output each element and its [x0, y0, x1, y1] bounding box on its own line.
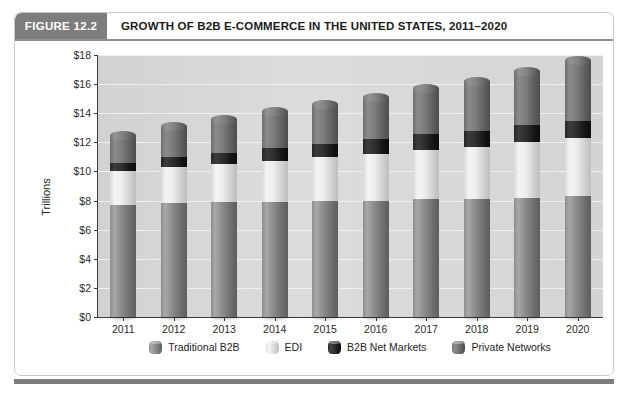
y-axis-tick-label: $10	[73, 165, 91, 177]
x-axis-tick-mark	[578, 317, 579, 321]
y-axis-label: Trillions	[40, 152, 52, 242]
bar-segment	[161, 203, 187, 317]
bar-segment	[464, 147, 490, 199]
x-axis-tick-mark	[325, 317, 326, 321]
legend-label: EDI	[285, 341, 303, 353]
bar-top-cap	[110, 131, 136, 140]
legend-item[interactable]: Private Networks	[452, 341, 550, 354]
bar-segment	[565, 138, 591, 196]
bar-segment	[363, 97, 389, 139]
bar-segment	[312, 157, 338, 201]
bar-segment	[161, 167, 187, 203]
x-axis-tick-mark	[275, 317, 276, 321]
bar-segment	[211, 153, 237, 165]
bar-top-cap	[413, 84, 439, 93]
bar-segment	[262, 202, 288, 317]
y-axis-tick-label: $0	[79, 311, 91, 323]
bar-segment	[514, 71, 540, 125]
bar-segment	[110, 171, 136, 204]
x-axis-tick-label: 2019	[503, 323, 551, 335]
bar-segment	[363, 154, 389, 201]
legend-label: Private Networks	[471, 341, 550, 353]
legend-swatch-icon	[149, 341, 162, 354]
footer-rule	[14, 379, 614, 384]
bar-segment	[464, 81, 490, 130]
plot-area: $0$2$4$6$8$10$12$14$16$18 20112012201320…	[97, 55, 603, 317]
y-axis-tick-label: $14	[73, 107, 91, 119]
x-axis-tick-mark	[174, 317, 175, 321]
x-axis-tick-label: 2012	[150, 323, 198, 335]
y-axis-tick-label: $8	[79, 195, 91, 207]
bar-segment	[413, 199, 439, 317]
chart-legend: Traditional B2BEDIB2B Net MarketsPrivate…	[97, 337, 603, 357]
bar-segment	[464, 131, 490, 147]
bar-segment	[514, 125, 540, 142]
legend-label: Traditional B2B	[168, 341, 239, 353]
x-axis-tick-mark	[376, 317, 377, 321]
bar-segment	[565, 121, 591, 138]
figure-header: FIGURE 12.2 GROWTH OF B2B E-COMMERCE IN …	[15, 13, 613, 41]
bar-top-cap	[514, 67, 540, 76]
bar-segment	[110, 205, 136, 317]
bar-segment	[514, 142, 540, 197]
bar-top-cap	[464, 77, 490, 86]
y-axis-tick-label: $2	[79, 282, 91, 294]
figure-card: FIGURE 12.2 GROWTH OF B2B E-COMMERCE IN …	[14, 12, 614, 376]
figure-number-tag: FIGURE 12.2	[15, 13, 107, 39]
y-axis-tick-mark	[94, 317, 98, 318]
y-axis-tick-label: $4	[79, 253, 91, 265]
y-axis-tick-label: $16	[73, 78, 91, 90]
x-axis-tick-label: 2017	[402, 323, 450, 335]
y-axis-tick-label: $18	[73, 49, 91, 61]
bar-top-cap	[211, 115, 237, 124]
x-axis-tick-label: 2014	[251, 323, 299, 335]
x-axis-tick-mark	[477, 317, 478, 321]
bar-segment	[363, 139, 389, 154]
figure-title: GROWTH OF B2B E-COMMERCE IN THE UNITED S…	[107, 13, 613, 39]
bar-segment	[363, 201, 389, 317]
legend-swatch-icon	[266, 341, 279, 354]
legend-item[interactable]: B2B Net Markets	[328, 341, 426, 354]
x-axis-tick-label: 2013	[200, 323, 248, 335]
bar-segment	[413, 134, 439, 150]
bar-segment	[565, 196, 591, 317]
x-axis-tick-label: 2018	[453, 323, 501, 335]
bar-segment	[262, 148, 288, 161]
bar-segment	[312, 105, 338, 144]
legend-item[interactable]: EDI	[266, 341, 303, 354]
chart-body: Trillions $0$2$4$6$8$10$12$14$16$18 2011…	[15, 41, 613, 376]
bar-segment	[211, 202, 237, 317]
bar-segment	[312, 144, 338, 157]
x-axis-tick-label: 2015	[301, 323, 349, 335]
bar-top-cap	[161, 122, 187, 131]
legend-item[interactable]: Traditional B2B	[149, 341, 239, 354]
bar-segment	[211, 164, 237, 202]
bar-segment	[110, 163, 136, 172]
x-axis-tick-mark	[426, 317, 427, 321]
bar-segment	[565, 61, 591, 121]
x-axis-tick-mark	[527, 317, 528, 321]
y-axis-tick-label: $6	[79, 224, 91, 236]
x-axis-tick-mark	[123, 317, 124, 321]
bar-segment	[262, 161, 288, 202]
bar-segment	[161, 126, 187, 157]
bar-top-cap	[363, 93, 389, 102]
bar-segment	[514, 198, 540, 317]
bar-segment	[312, 201, 338, 317]
bar-segment	[413, 150, 439, 199]
bar-segment	[413, 89, 439, 134]
legend-swatch-icon	[452, 341, 465, 354]
legend-label: B2B Net Markets	[347, 341, 426, 353]
x-axis-tick-label: 2016	[352, 323, 400, 335]
bar-segment	[464, 199, 490, 317]
y-axis-tick-label: $12	[73, 136, 91, 148]
bar-segment	[262, 112, 288, 148]
x-axis-tick-label: 2011	[99, 323, 147, 335]
x-axis-tick-label: 2020	[554, 323, 602, 335]
bar-segment	[161, 157, 187, 167]
legend-swatch-icon	[328, 341, 341, 354]
bar-segment	[211, 119, 237, 152]
bar-group	[98, 55, 603, 317]
x-axis-tick-mark	[224, 317, 225, 321]
